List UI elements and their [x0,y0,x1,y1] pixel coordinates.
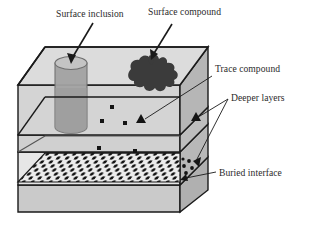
layer-bottom-front [18,185,180,212]
trace-dot [97,146,101,150]
buried-interface-plane [18,153,194,182]
cylinder-submerged-part [55,88,87,134]
layered-material-diagram: Surface inclusion Surface compound Trace… [0,0,314,230]
buried-interface-dotted-area [18,153,180,182]
trace-dot [100,119,104,123]
trace-dot [133,149,137,153]
layer-second-front [18,85,180,135]
label-trace-compound: Trace compound [215,63,280,74]
trace-dot [123,121,127,125]
label-deeper-layers: Deeper layers [231,92,285,103]
top-face [18,47,208,85]
material-block [18,47,208,212]
label-surface-inclusion: Surface inclusion [56,8,124,19]
label-surface-compound: Surface compound [148,6,221,17]
label-buried-interface: Buried interface [219,167,282,178]
trace-dot [110,105,114,109]
figure-container: Surface inclusion Surface compound Trace… [0,0,314,230]
surface-inclusion-cylinder [55,57,87,134]
